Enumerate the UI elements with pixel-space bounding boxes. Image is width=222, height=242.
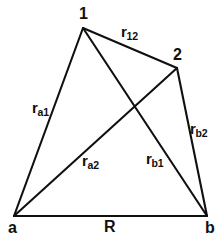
edge-label-r-a2-sub: a2 <box>88 159 99 171</box>
edge-label-r-b2: rb2 <box>190 121 207 136</box>
edge-label-R: R <box>104 219 115 235</box>
distance-diagram-figure: 1 2 a b ra1 r12 rb2 ra2 rb1 R <box>0 0 222 242</box>
edge-label-r-12-sub: 12 <box>127 30 138 42</box>
edge-line-r-a2 <box>14 68 177 216</box>
edge-label-r-a1-base: r <box>32 99 38 116</box>
edge-label-r-a1-sub: a1 <box>38 106 49 118</box>
diagram-canvas <box>0 0 222 242</box>
vertex-label-a: a <box>8 220 17 236</box>
vertex-label-2: 2 <box>173 47 182 63</box>
edge-label-r-12: r12 <box>121 24 138 39</box>
vertex-label-1: 1 <box>79 6 88 22</box>
edge-label-r-b2-base: r <box>190 120 196 137</box>
edge-label-r-a1: ra1 <box>32 100 49 115</box>
edge-label-r-b1-sub: b1 <box>152 157 164 169</box>
edge-label-r-b2-sub: b2 <box>196 127 208 139</box>
vertex-label-b: b <box>205 220 215 236</box>
edge-label-r-12-base: r <box>121 23 127 40</box>
edge-label-r-a2: ra2 <box>82 153 99 168</box>
edge-label-R-base: R <box>104 218 115 235</box>
edge-line-r-a1 <box>14 28 83 216</box>
edge-label-r-b1: rb1 <box>146 151 163 166</box>
edge-label-r-b1-base: r <box>146 150 152 167</box>
edge-label-r-a2-base: r <box>82 152 88 169</box>
